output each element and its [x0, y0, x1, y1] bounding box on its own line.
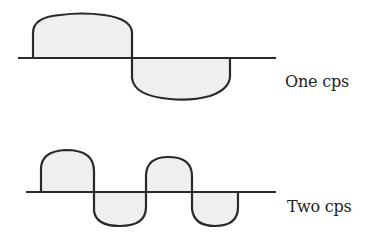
two-cps-waveform — [26, 150, 276, 226]
waveform-figure: One cps Two cps — [0, 0, 381, 244]
two-cps-negative-lobe-1 — [94, 192, 146, 226]
two-cps-positive-lobe-2 — [146, 157, 192, 192]
one-cps-positive-lobe — [33, 14, 132, 59]
two-cps-positive-lobe-1 — [41, 150, 94, 192]
two-cps-negative-lobe-2 — [192, 192, 238, 226]
one-cps-label: One cps — [285, 72, 349, 91]
two-cps-label: Two cps — [287, 197, 352, 216]
one-cps-negative-lobe — [132, 58, 230, 100]
one-cps-waveform — [18, 14, 276, 100]
